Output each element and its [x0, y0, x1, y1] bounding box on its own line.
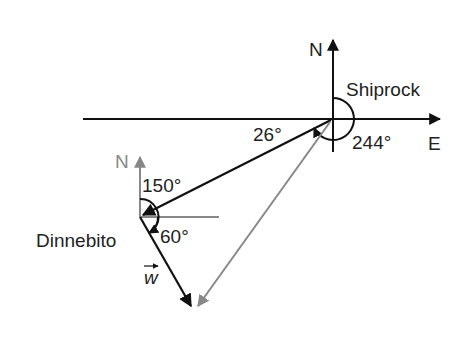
angle-60-label: 60°	[160, 226, 189, 247]
diagram-canvas: N Shiprock 244° E 26° N 150° 60° Dinnebi…	[0, 0, 458, 338]
angle-150-label: 150°	[142, 175, 181, 196]
dinnebito-label: Dinnebito	[36, 230, 116, 251]
dinnebito-north-label: N	[115, 151, 129, 172]
resultant-vector	[198, 122, 330, 306]
shiprock-north-label: N	[309, 39, 323, 60]
vector-diagram: N Shiprock 244° E 26° N 150° 60° Dinnebi…	[0, 0, 458, 338]
shiprock-to-dinnebito-vector	[143, 120, 331, 215]
angle-26-label: 26°	[253, 124, 282, 145]
east-label: E	[428, 133, 441, 154]
angle-244-label: 244°	[352, 132, 391, 153]
w-vector-label: w	[144, 267, 159, 288]
dinnebito-60-arc	[149, 217, 158, 233]
shiprock-label: Shiprock	[346, 79, 420, 100]
